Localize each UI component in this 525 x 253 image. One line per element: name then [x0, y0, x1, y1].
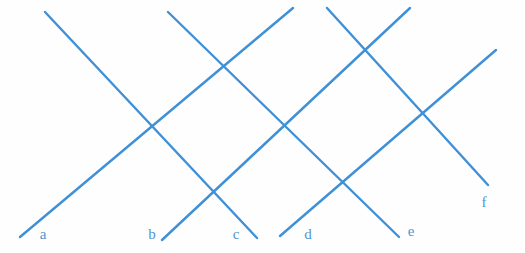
- label-c: c: [233, 226, 240, 242]
- lines-diagram-svg: abcdef: [0, 0, 525, 253]
- label-a: a: [40, 226, 47, 242]
- label-d: d: [304, 226, 312, 242]
- geometry-diagram: abcdef: [0, 0, 525, 253]
- line-f: [327, 8, 488, 185]
- line-d: [280, 50, 496, 236]
- label-e: e: [408, 223, 415, 239]
- line-c: [45, 12, 257, 238]
- label-f: f: [482, 194, 487, 210]
- label-b: b: [148, 226, 156, 242]
- line-a: [20, 8, 293, 237]
